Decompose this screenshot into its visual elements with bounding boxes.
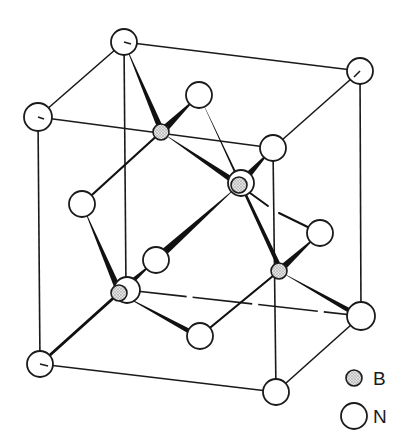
bond-B1-left xyxy=(82,132,161,204)
bond-B4-left xyxy=(82,204,122,292)
legend-b-label: B xyxy=(373,368,386,389)
edge-bottom-front xyxy=(40,364,276,392)
b-atom xyxy=(271,263,287,279)
unit-cell-svg: B N xyxy=(0,0,417,448)
edge-top-back xyxy=(124,42,360,71)
bond-B4-BFL-highlight xyxy=(40,293,119,364)
n-atom xyxy=(143,247,169,273)
legend-n-symbol-icon xyxy=(341,403,367,429)
legend-b-symbol-icon xyxy=(346,370,362,386)
edge-top-right xyxy=(273,71,360,148)
n-atom xyxy=(347,302,375,330)
edge-top-left xyxy=(38,42,124,117)
nitrogen-atoms xyxy=(24,29,375,405)
bond-B3-bottom xyxy=(200,271,279,336)
edge-front-left-vertical xyxy=(38,117,40,364)
b-atom xyxy=(111,285,127,301)
legend-n-label: N xyxy=(373,406,387,427)
n-atom xyxy=(307,220,333,246)
legend: B N xyxy=(341,368,387,429)
n-atom xyxy=(186,82,212,108)
n-atom xyxy=(260,135,286,161)
edge-back-right-vertical xyxy=(360,71,361,316)
edge-bottom-back xyxy=(127,290,361,316)
b-atom xyxy=(231,177,247,193)
n-atom xyxy=(69,191,95,217)
bond-B1-TBL xyxy=(124,42,164,130)
bond-B1-back xyxy=(161,132,239,187)
crystal-structure-diagram: B N xyxy=(0,0,417,448)
n-atom xyxy=(187,323,213,349)
b-atom xyxy=(153,124,169,140)
n-atom xyxy=(263,379,289,405)
